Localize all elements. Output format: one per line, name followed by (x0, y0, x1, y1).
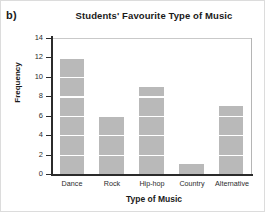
y-tick-label-0: 0 (26, 170, 43, 178)
x-tick-label-alternative: Alternative (212, 179, 252, 188)
gridline-12 (52, 57, 251, 58)
x-tick-label-hip-hop: Hip-hop (132, 179, 172, 188)
x-tick-label-rock: Rock (92, 179, 132, 188)
gridline-6 (52, 116, 251, 117)
y-tick-label-14: 14 (26, 34, 43, 42)
y-tick-label-6: 6 (26, 112, 43, 120)
gridline-2 (52, 155, 251, 156)
x-tick-label-country: Country (172, 179, 212, 188)
bar-country (179, 164, 204, 174)
y-tick-10 (46, 77, 52, 78)
y-tick-0 (46, 174, 52, 175)
y-axis-title: Frequency (13, 53, 22, 113)
y-tick-label-10: 10 (26, 73, 43, 81)
x-axis-line (51, 174, 253, 176)
gridline-4 (52, 135, 251, 136)
figure-container: b) Students' Favourite Type of Music Fre… (0, 0, 265, 212)
gridline-10 (52, 77, 251, 78)
y-tick-2 (46, 155, 52, 156)
part-label: b) (6, 9, 17, 21)
y-tick-label-12: 12 (26, 53, 43, 61)
y-tick-6 (46, 116, 52, 117)
bar-rock (99, 116, 124, 174)
chart-title: Students' Favourite Type of Music (48, 10, 260, 21)
y-tick-8 (46, 96, 52, 97)
x-axis-title: Type of Music (48, 194, 260, 204)
y-tick-label-2: 2 (26, 151, 43, 159)
y-tick-4 (46, 135, 52, 136)
y-tick-14 (46, 38, 52, 39)
x-tick-label-dance: Dance (52, 179, 92, 188)
x-axis-tick-labels: DanceRockHip-hopCountryAlternative (52, 179, 252, 188)
y-tick-12 (46, 57, 52, 58)
gridline-14 (52, 38, 251, 39)
gridline-8 (52, 96, 251, 97)
y-tick-label-4: 4 (26, 131, 43, 139)
bar-hip-hop (139, 87, 164, 174)
y-tick-label-8: 8 (26, 92, 43, 100)
plot-area (52, 38, 252, 174)
